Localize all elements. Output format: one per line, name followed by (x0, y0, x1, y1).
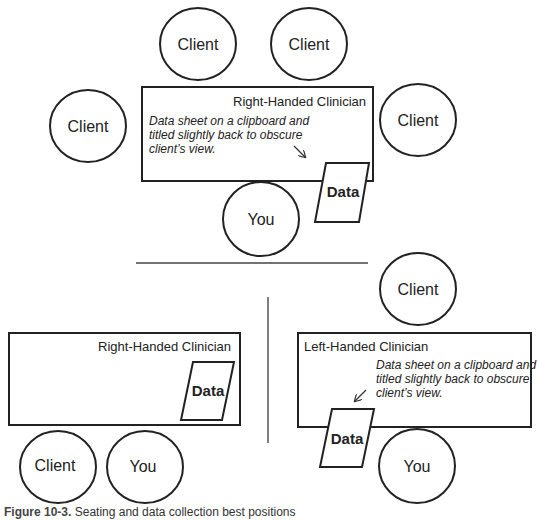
note-line-3: client’s view. (149, 142, 215, 156)
bottom-right-scene: Client Left-Handed Clinician Data sheet … (298, 253, 536, 503)
you-label: You (248, 211, 275, 228)
table-title: Right-Handed Clinician (233, 94, 366, 109)
client-label: Client (398, 112, 439, 129)
client-circle: Client (20, 431, 96, 503)
you-circle: You (223, 182, 299, 256)
you-circle: You (379, 429, 455, 503)
you-label: You (404, 458, 431, 475)
data-label: Data (192, 382, 225, 399)
note-line-2: titled slightly back to obscure (376, 372, 530, 386)
client-circle: Client (380, 253, 456, 325)
client-right: Client (380, 84, 456, 156)
figure-caption: Figure 10-3. Seating and data collection… (4, 505, 296, 519)
table-title: Left-Handed Clinician (304, 339, 428, 354)
you-circle: You (107, 431, 183, 503)
note-line-1: Data sheet on a clipboard and (376, 358, 536, 372)
data-label: Data (327, 183, 360, 200)
client-label: Client (289, 36, 330, 53)
client-top-left: Client (160, 8, 236, 80)
client-label: Client (398, 281, 439, 298)
note-line-1: Data sheet on a clipboard and (149, 114, 309, 128)
you-label: You (130, 458, 157, 475)
table-title: Right-Handed Clinician (98, 339, 231, 354)
bottom-left-scene: Right-Handed Clinician Data Client You (9, 333, 240, 503)
note-line-2: titled slightly back to obscure (149, 128, 303, 142)
client-left: Client (50, 90, 126, 162)
client-label: Client (68, 118, 109, 135)
top-scene: Client Client Client Client Right-Handed… (50, 8, 456, 256)
data-label: Data (331, 430, 364, 447)
client-label: Client (35, 457, 76, 474)
client-top-right: Client (271, 8, 347, 80)
seating-diagram: Client Client Client Client Right-Handed… (0, 0, 539, 521)
note-line-3: client’s view. (376, 386, 442, 400)
caption-prefix: Figure 10-3. (4, 505, 71, 519)
caption-text: Seating and data collection best positio… (75, 505, 296, 519)
client-label: Client (178, 36, 219, 53)
